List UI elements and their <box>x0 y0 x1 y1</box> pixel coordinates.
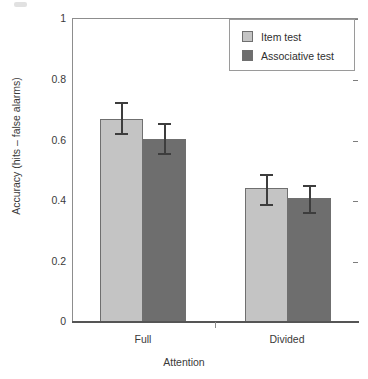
y-tick-label-0.2: 0.2 <box>26 256 66 266</box>
error-cap-bottom-full-item <box>115 133 128 135</box>
plot-area: 1 0.8 0.6 0.4 0.2 0 <box>72 18 358 322</box>
legend-label-item-test: Item test <box>261 31 301 43</box>
legend-label-associative-test: Associative test <box>261 50 334 62</box>
error-bar-full-associative <box>164 123 166 153</box>
y-tick-label-0.8: 0.8 <box>26 74 66 84</box>
y-tick-label-1: 1 <box>26 13 66 23</box>
error-cap-top-divided-item <box>260 174 273 176</box>
legend-swatch-light-icon <box>242 31 253 42</box>
error-cap-bottom-divided-assoc <box>303 212 316 214</box>
x-axis-title: Attention <box>0 356 368 368</box>
error-bar-divided-associative <box>309 185 311 212</box>
bar-full-associative-test <box>143 139 186 322</box>
bar-divided-associative-test <box>288 198 331 322</box>
error-cap-top-full-item <box>115 102 128 104</box>
x-axis-mid-tick <box>215 322 216 328</box>
y-tick-label-0.4: 0.4 <box>26 195 66 205</box>
scan-artifact <box>14 2 27 7</box>
legend-item-item-test: Item test <box>242 27 354 46</box>
error-cap-top-full-assoc <box>158 123 171 125</box>
x-tick-label-full: Full <box>98 333 188 345</box>
y-tick-mark-0.2 <box>353 262 358 263</box>
y-tick-label-0: 0 <box>26 316 66 326</box>
legend-item-associative-test: Associative test <box>242 46 354 65</box>
y-tick-mark-0.4 <box>353 201 358 202</box>
error-bar-full-item-test <box>121 102 123 133</box>
y-tick-label-0.6: 0.6 <box>26 135 66 145</box>
y-tick-mark-0.6 <box>353 141 358 142</box>
legend-swatch-dark-icon <box>242 50 253 61</box>
bar-full-item-test <box>100 119 143 322</box>
bar-chart-figure: Accuracy (hits – false alarms) 1 0.8 0.6… <box>0 0 368 379</box>
error-bar-divided-item <box>266 174 268 204</box>
bar-divided-item-test <box>245 188 288 322</box>
x-tick-label-divided: Divided <box>242 333 332 345</box>
chart-legend: Item test Associative test <box>229 19 355 71</box>
error-cap-top-divided-assoc <box>303 185 316 187</box>
error-cap-bottom-full-assoc <box>158 153 171 155</box>
y-tick-mark-0.8 <box>353 80 358 81</box>
y-axis-title: Accuracy (hits – false alarms) <box>10 26 22 266</box>
error-cap-bottom-divided-item <box>260 204 273 206</box>
